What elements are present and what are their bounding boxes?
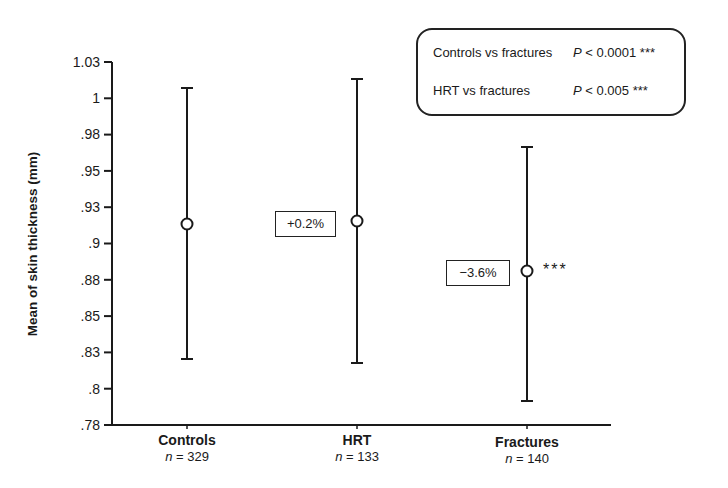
y-tick-marks xyxy=(104,62,112,425)
category-fractures: Fractures n = 140 xyxy=(457,434,597,466)
legend-row-controls-label: Controls vs fractures xyxy=(433,45,552,60)
y-tick-label: .95 xyxy=(60,164,100,178)
mean-marker-controls xyxy=(182,219,193,230)
errorbar-fractures xyxy=(521,147,533,401)
y-tick-label: 1.03 xyxy=(60,55,100,69)
category-name: HRT xyxy=(287,432,427,448)
y-tick-label: .98 xyxy=(60,127,100,141)
mean-marker-fractures xyxy=(522,266,533,277)
sample-size: n = 140 xyxy=(457,451,597,466)
category-hrt: HRT n = 133 xyxy=(287,432,427,464)
y-tick-label: .8 xyxy=(60,382,100,396)
sample-size: n = 329 xyxy=(117,449,257,464)
y-axis-title-wrap: Mean of skin thickness (mm) xyxy=(22,60,42,428)
category-name: Controls xyxy=(117,432,257,448)
errorbar-controls xyxy=(181,88,193,359)
y-tick-label: .85 xyxy=(60,309,100,323)
y-tick-label: .93 xyxy=(60,200,100,214)
errorbar-hrt xyxy=(351,79,363,363)
y-tick-label: .9 xyxy=(60,236,100,250)
category-controls: Controls n = 329 xyxy=(117,432,257,464)
y-tick-label: 1 xyxy=(60,91,100,105)
legend-row-hrt-p: P < 0.005 *** xyxy=(573,83,648,98)
hrt-change-annotation: +0.2% xyxy=(275,211,336,237)
y-tick-label: .78 xyxy=(60,418,100,432)
legend-row-controls-p: P < 0.0001 *** xyxy=(573,45,655,60)
sample-size: n = 133 xyxy=(287,449,427,464)
fractures-significance-stars: *** xyxy=(543,261,568,279)
legend-row-hrt-label: HRT vs fractures xyxy=(433,83,530,98)
category-name: Fractures xyxy=(457,434,597,450)
y-tick-label: .83 xyxy=(60,345,100,359)
y-axis-title: Mean of skin thickness (mm) xyxy=(25,152,40,337)
fractures-change-annotation: −3.6% xyxy=(446,260,510,286)
y-tick-label: .88 xyxy=(60,273,100,287)
significance-legend: Controls vs fractures P < 0.0001 *** HRT… xyxy=(416,28,686,116)
mean-marker-hrt xyxy=(352,216,363,227)
